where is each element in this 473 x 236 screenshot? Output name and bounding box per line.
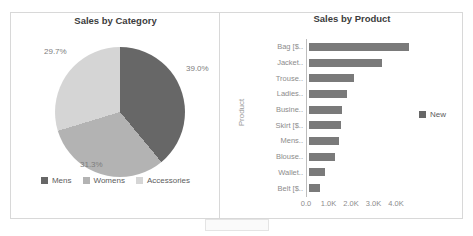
bar-row: Jacket.. (250, 55, 462, 71)
bar-row: Skirt [$.. (250, 117, 462, 133)
bar-category-label: Busine.. (250, 105, 306, 114)
bottom-scrollbar-tab[interactable] (205, 219, 269, 231)
legend-new-swatch (419, 111, 426, 118)
bar-ladies[interactable] (309, 90, 347, 98)
pie-legend-item-accessories[interactable]: Accessories (136, 176, 190, 185)
bar-row: Wallet.. (250, 165, 462, 181)
legend-swatch-icon (41, 177, 48, 184)
bar-row: Bag [$.. (250, 39, 462, 55)
bar-category-label: Trouse.. (250, 74, 306, 83)
bar-chart-legend: New (419, 110, 446, 119)
bar-row: Trouse.. (250, 70, 462, 86)
x-axis-tick-label: 3.0K (366, 199, 381, 208)
legend-label: Womens (94, 176, 125, 185)
x-axis-tick-label: 0.0 (301, 199, 311, 208)
legend-label: Mens (52, 176, 72, 185)
bar-chart-title: Sales by Product (240, 13, 464, 24)
bar-chart-x-axis-ticks: 0.01.0K2.0K3.0K4.0K (0, 199, 473, 211)
bar-skirt[interactable] (309, 121, 341, 129)
bar-trouse[interactable] (309, 74, 354, 82)
pie-chart-title: Sales by Category (10, 15, 221, 26)
bar-bag[interactable] (309, 43, 409, 51)
legend-swatch-icon (136, 177, 143, 184)
bar-jacket[interactable] (309, 59, 382, 67)
pie-slice-label-accessories: 29.7% (44, 47, 67, 56)
pie-legend-item-womens[interactable]: Womens (83, 176, 125, 185)
bar-category-label: Blouse.. (250, 152, 306, 161)
bar-chart-axis-line (306, 39, 307, 197)
bar-busine[interactable] (309, 106, 342, 114)
bar-row: Blouse.. (250, 149, 462, 165)
pie-legend: MensWomensAccessories (10, 176, 221, 185)
pie-slice-label-womens: 31.3% (80, 160, 103, 169)
pie-legend-item-mens[interactable]: Mens (41, 176, 72, 185)
bar-chart-y-axis-label: Product (237, 99, 246, 127)
bar-category-label: Mens.. (250, 136, 306, 145)
bar-category-label: Bag [$.. (250, 42, 306, 51)
pie-graphic[interactable] (55, 47, 185, 177)
legend-swatch-icon (83, 177, 90, 184)
bar-category-label: Skirt [$.. (250, 121, 306, 130)
x-axis-tick-label: 4.0K (388, 199, 403, 208)
pie-slice-label-mens: 39.0% (186, 64, 209, 73)
bar-category-label: Ladies.. (250, 89, 306, 98)
bar-blouse[interactable] (309, 153, 335, 161)
x-axis-tick-label: 2.0K (343, 199, 358, 208)
bar-mens[interactable] (309, 137, 339, 145)
x-axis-tick-label: 1.0K (321, 199, 336, 208)
bar-category-label: Belt [$.. (250, 184, 306, 193)
panel-divider (219, 12, 220, 218)
bar-belt[interactable] (309, 184, 320, 192)
bar-row: Ladies.. (250, 86, 462, 102)
bar-category-label: Wallet.. (250, 168, 306, 177)
legend-new-label: New (430, 110, 446, 119)
legend-label: Accessories (147, 176, 190, 185)
bar-category-label: Jacket.. (250, 58, 306, 67)
bar-row: Mens.. (250, 133, 462, 149)
bar-row: Belt [$.. (250, 180, 462, 196)
bar-wallet[interactable] (309, 168, 325, 176)
